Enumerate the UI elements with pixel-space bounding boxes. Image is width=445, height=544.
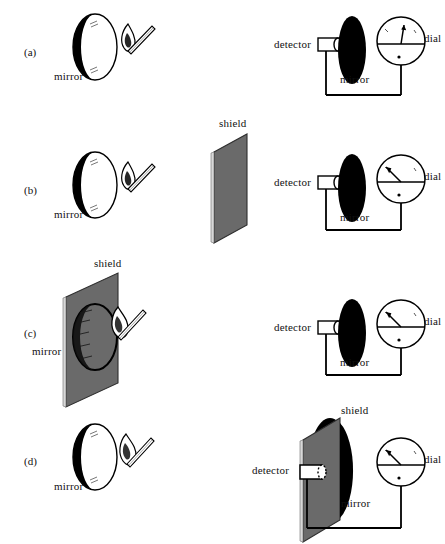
shield-d — [300, 418, 340, 542]
mirror-label-left-d: mirror — [54, 480, 83, 492]
panel-a: (a) — [0, 0, 445, 120]
dial-label-d: dial — [424, 453, 441, 465]
match-flame-a — [122, 24, 155, 54]
mirror-label-right-c: mirror — [340, 356, 369, 368]
dial-label-b: dial — [424, 170, 441, 182]
mirror-label-left-a: mirror — [54, 70, 83, 82]
match-flame-c — [112, 307, 146, 340]
shield-label-c: shield — [94, 257, 121, 269]
detector-label-a: detector — [274, 38, 311, 50]
shield-label-d: shield — [341, 404, 368, 416]
shield-b — [211, 134, 247, 243]
match-flame-b — [122, 162, 155, 192]
dial-a — [377, 17, 425, 95]
match-flame-d — [120, 434, 154, 467]
panel-d-graphics — [0, 400, 445, 544]
dial-b — [377, 155, 425, 230]
panel-b-graphics — [0, 120, 445, 255]
dial-c — [377, 300, 425, 375]
detector-label-d: detector — [252, 464, 289, 476]
shield-c — [63, 273, 118, 407]
panel-c: (c) — [0, 255, 445, 400]
panel-a-graphics — [0, 0, 445, 120]
dial-label-a: dial — [424, 32, 441, 44]
panel-c-graphics — [0, 255, 445, 400]
mirror-label-left-c: mirror — [32, 345, 61, 357]
dial-d — [377, 438, 425, 528]
shield-label-b: shield — [219, 117, 246, 129]
detector-label-b: detector — [274, 176, 311, 188]
dial-label-c: dial — [424, 315, 441, 327]
panel-d: (d) — [0, 400, 445, 544]
mirror-label-right-d: mirror — [341, 497, 370, 509]
detector-label-c: detector — [274, 321, 311, 333]
figure-canvas: (a) — [0, 0, 445, 544]
mirror-label-left-b: mirror — [54, 208, 83, 220]
mirror-label-right-b: mirror — [340, 211, 369, 223]
panel-b: (b) — [0, 120, 445, 255]
mirror-label-right-a: mirror — [340, 73, 369, 85]
